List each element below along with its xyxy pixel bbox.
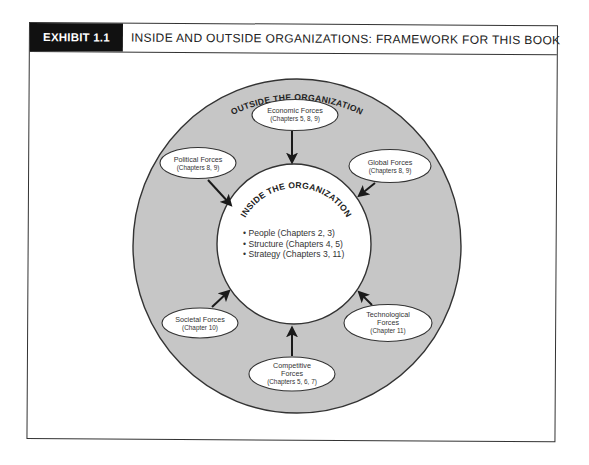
svg-text:(Chapters 8, 9): (Chapters 8, 9) [369, 167, 412, 175]
svg-text:Forces: Forces [281, 369, 303, 378]
svg-text:(Chapters 5, 6, 7): (Chapters 5, 6, 7) [267, 378, 317, 386]
svg-text:Societal Forces: Societal Forces [175, 315, 225, 324]
svg-text:Forces: Forces [377, 318, 399, 327]
svg-text:(Chapter 11): (Chapter 11) [370, 327, 405, 335]
force-competitive: Competitive Forces (Chapters 5, 6, 7) [249, 357, 335, 391]
force-political: Political Forces (Chapters 8, 9) [160, 148, 236, 179]
force-societal: Societal Forces (Chapter 10) [162, 308, 238, 338]
inner-item-structure: • Structure (Chapters 4, 5) [243, 239, 343, 249]
framework-diagram: OUTSIDE THE ORGANIZATION INSIDE THE ORGA… [0, 0, 589, 465]
svg-text:(Chapters 5, 8, 9): (Chapters 5, 8, 9) [270, 115, 320, 123]
svg-text:(Chapters 8, 9): (Chapters 8, 9) [177, 164, 220, 172]
svg-text:Political Forces: Political Forces [174, 155, 223, 164]
inner-item-strategy: • Strategy (Chapters 3, 11) [243, 249, 344, 259]
svg-text:(Chapter 10): (Chapter 10) [182, 324, 218, 332]
svg-text:Global Forces: Global Forces [368, 158, 413, 167]
force-economic: Economic Forces (Chapters 5, 8, 9) [252, 100, 338, 131]
force-global: Global Forces (Chapters 8, 9) [349, 150, 431, 183]
force-technological: Technological Forces (Chapter 11) [344, 305, 432, 342]
svg-text:Economic Forces: Economic Forces [267, 106, 323, 115]
inner-item-people: • People (Chapters 2, 3) [243, 228, 335, 238]
